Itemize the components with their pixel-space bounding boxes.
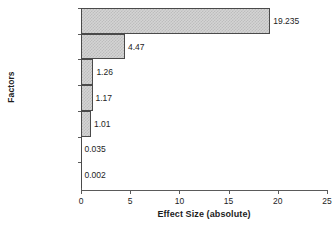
bar-row: 1.17D-origin [81,85,327,111]
bar-row: 19.235E-Cooling period [81,8,327,34]
x-axis-tick [278,190,279,194]
plot-area: 19.235E-Cooling period4.47A-Temp1.26BC1.… [81,8,327,188]
bar-value-label: 0.002 [82,170,106,180]
bar-value-label: 19.235 [270,16,299,26]
bar [81,34,125,60]
bar-row: 4.47A-Temp [81,34,327,60]
x-axis-tick-label: 25 [322,196,331,206]
x-axis-tick-label: 20 [273,196,282,206]
bar-row: 1.26BC [81,59,327,85]
x-axis-tick-label: 0 [79,196,84,206]
bar [81,8,270,34]
bar-row: 1.01C-Seeds [81,111,327,137]
bar-row: 0.002B-Antisolvent [81,162,327,188]
effect-size-bar-chart: Factors 19.235E-Cooling period4.47A-Temp… [0,0,334,231]
x-axis-tick [179,190,180,194]
bar-value-label: 0.035 [82,144,106,154]
bar-value-label: 1.17 [93,93,113,103]
x-axis-tick [81,190,82,194]
x-axis-tick [130,190,131,194]
x-axis-tick [327,190,328,194]
bar-value-label: 1.01 [91,119,111,129]
y-axis-tick [78,8,81,9]
y-axis-title: Factors [6,57,16,117]
bar-value-label: 4.47 [125,42,145,52]
y-axis-tick [78,59,81,60]
bar [81,85,93,111]
x-axis-tick-label: 15 [224,196,233,206]
y-axis-tick [78,137,81,138]
bar-row: 0.035BE [81,137,327,163]
x-axis-tick-label: 10 [175,196,184,206]
bar-value-label: 1.26 [93,67,113,77]
x-axis-tick-label: 5 [128,196,133,206]
y-axis-tick [78,111,81,112]
x-axis-tick [229,190,230,194]
bar [81,59,93,85]
y-axis-tick [78,162,81,163]
y-axis-tick [78,34,81,35]
x-axis-line [81,190,328,191]
bar [81,111,91,137]
x-axis-title: Effect Size (absolute) [81,209,327,219]
y-axis-tick [78,85,81,86]
